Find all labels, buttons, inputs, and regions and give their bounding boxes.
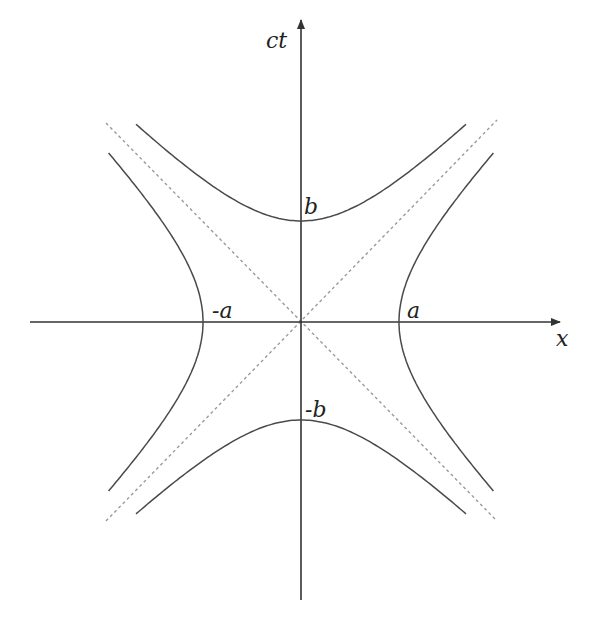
ct-axis-label: ct <box>266 28 287 53</box>
label-neg-a: -a <box>212 298 233 323</box>
hyperbola-diagram: ct x b -b a -a <box>0 0 603 627</box>
label-a: a <box>407 298 420 323</box>
label-b: b <box>304 194 318 219</box>
label-neg-b: -b <box>305 397 327 422</box>
x-axis-label: x <box>556 326 569 351</box>
